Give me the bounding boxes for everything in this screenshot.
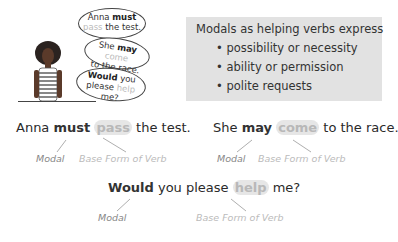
modal-label: Modal (36, 153, 65, 164)
example-sentence-2: She may come to the race. (213, 120, 398, 135)
sentence-text: Anna (16, 120, 53, 135)
sentence-text: to the race. (319, 120, 398, 135)
modal-label: Modal (98, 212, 127, 223)
base-verb-word: help (233, 180, 269, 195)
sentence-text: me? (269, 180, 301, 195)
sentence-text: you please (154, 180, 233, 195)
modal-word: must (53, 120, 90, 135)
example-sentence-1: Anna must pass the test. (16, 120, 191, 135)
sentence-text: She (213, 120, 242, 135)
base-form-label: Base Form of Verb (196, 212, 284, 223)
sentence-text: the test. (132, 120, 191, 135)
modal-word: may (242, 120, 272, 135)
base-verb-word: come (276, 120, 319, 135)
modal-word: Would (108, 180, 154, 195)
base-verb-word: pass (94, 120, 132, 135)
modal-label: Modal (217, 153, 246, 164)
example-sentence-3: Would you please help me? (108, 180, 300, 195)
base-form-label: Base Form of Verb (258, 153, 346, 164)
base-form-label: Base Form of Verb (79, 153, 167, 164)
